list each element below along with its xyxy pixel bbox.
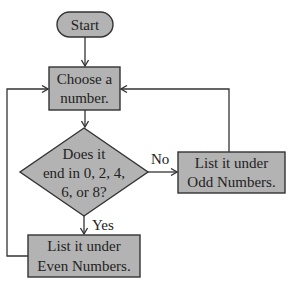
decision-label-line1: Does it bbox=[63, 146, 107, 162]
decision-node: Does it end in 0, 2, 4, 6, or 8? bbox=[20, 128, 148, 216]
start-label: Start bbox=[71, 17, 100, 33]
choose-label-line2: number. bbox=[60, 90, 109, 106]
start-node: Start bbox=[57, 12, 113, 37]
decision-label-line2: end in 0, 2, 4, bbox=[43, 165, 125, 181]
yes-label: Yes bbox=[92, 217, 114, 233]
choose-number-node: Choose a number. bbox=[49, 67, 120, 110]
arrow-odd-loop-back bbox=[121, 89, 229, 152]
even-label-line2: Even Numbers. bbox=[37, 258, 130, 274]
odd-numbers-node: List it under Odd Numbers. bbox=[178, 152, 285, 193]
flowchart: Start Choose a number. Does it end in 0,… bbox=[0, 0, 288, 283]
choose-label-line1: Choose a bbox=[57, 71, 113, 87]
odd-label-line1: List it under bbox=[195, 155, 268, 171]
decision-label-line3: 6, or 8? bbox=[61, 184, 107, 200]
even-numbers-node: List it under Even Numbers. bbox=[28, 235, 140, 277]
no-label: No bbox=[151, 151, 169, 167]
even-label-line1: List it under bbox=[47, 238, 120, 254]
odd-label-line2: Odd Numbers. bbox=[187, 174, 275, 190]
